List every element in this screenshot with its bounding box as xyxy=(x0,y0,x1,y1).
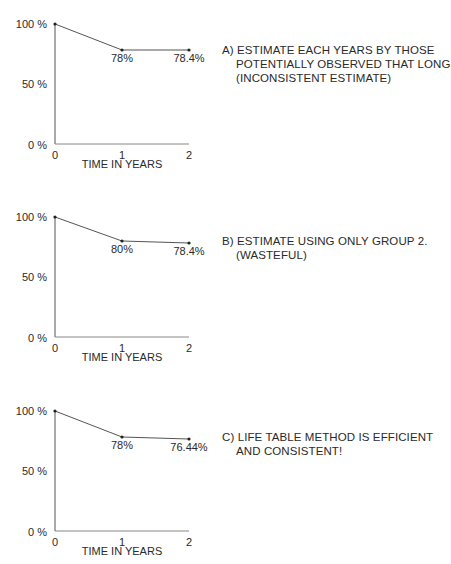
y-axis: 100 % 50 % 0 % xyxy=(16,405,55,538)
survival-chart-c: 100 % 50 % 0 % 0 1 2 TIME IN YEARS 78% 7… xyxy=(0,387,220,564)
xtick-2: 2 xyxy=(186,342,192,354)
ytick-0: 0 % xyxy=(28,332,47,344)
caption-line: AND CONSISTENT! xyxy=(222,444,433,458)
x-axis: 0 1 2 TIME IN YEARS xyxy=(52,531,192,557)
data-point-0 xyxy=(53,22,56,25)
data-point-0 xyxy=(53,215,56,218)
caption-a: A) ESTIMATE EACH YEARS BY THOSE POTENTIA… xyxy=(222,43,451,85)
x-axis-label: TIME IN YEARS xyxy=(82,351,162,363)
x-axis: 0 1 2 TIME IN YEARS xyxy=(52,144,192,170)
caption-line: POTENTIALLY OBSERVED THAT LONG xyxy=(222,57,451,71)
survival-chart-b: 100 % 50 % 0 % 0 1 2 TIME IN YEARS 80% 7… xyxy=(0,193,220,368)
panel-a: 100 % 50 % 0 % 0 1 2 TIME IN YEARS 78% 7… xyxy=(0,0,440,190)
point-label-1: 80% xyxy=(111,243,133,255)
ytick-50: 50 % xyxy=(22,465,47,477)
survival-line: 78% 78.4% xyxy=(53,22,204,64)
caption-line: A) ESTIMATE EACH YEARS BY THOSE xyxy=(222,43,451,57)
point-label-1: 78% xyxy=(111,439,133,451)
ytick-100: 100 % xyxy=(16,405,47,417)
xtick-0: 0 xyxy=(52,342,58,354)
survival-line: 78% 76.44% xyxy=(53,409,207,453)
caption-c: C) LIFE TABLE METHOD IS EFFICIENT AND CO… xyxy=(222,430,433,458)
x-axis: 0 1 2 TIME IN YEARS xyxy=(52,337,192,363)
panel-c: 100 % 50 % 0 % 0 1 2 TIME IN YEARS 78% 7… xyxy=(0,387,440,564)
point-label-1: 78% xyxy=(111,52,133,64)
panel-b: 100 % 50 % 0 % 0 1 2 TIME IN YEARS 80% 7… xyxy=(0,193,440,368)
ytick-100: 100 % xyxy=(16,211,47,223)
x-axis-label: TIME IN YEARS xyxy=(82,545,162,557)
caption-line: C) LIFE TABLE METHOD IS EFFICIENT xyxy=(222,430,433,444)
caption-b: B) ESTIMATE USING ONLY GROUP 2. (WASTEFU… xyxy=(222,234,427,262)
xtick-0: 0 xyxy=(52,536,58,548)
y-axis: 100 % 50 % 0 % xyxy=(16,211,55,344)
data-point-0 xyxy=(53,409,56,412)
ytick-100: 100 % xyxy=(16,18,47,30)
point-label-2: 78.4% xyxy=(173,245,204,257)
point-label-2: 76.44% xyxy=(170,441,208,453)
point-label-2: 78.4% xyxy=(173,52,204,64)
xtick-2: 2 xyxy=(186,149,192,161)
ytick-50: 50 % xyxy=(22,271,47,283)
caption-line: (INCONSISTENT ESTIMATE) xyxy=(222,71,451,85)
ytick-50: 50 % xyxy=(22,78,47,90)
xtick-2: 2 xyxy=(186,536,192,548)
ytick-0: 0 % xyxy=(28,139,47,151)
survival-chart-a: 100 % 50 % 0 % 0 1 2 TIME IN YEARS 78% 7… xyxy=(0,0,220,190)
xtick-0: 0 xyxy=(52,149,58,161)
ytick-0: 0 % xyxy=(28,526,47,538)
caption-line: B) ESTIMATE USING ONLY GROUP 2. xyxy=(222,234,427,248)
y-axis: 100 % 50 % 0 % xyxy=(16,18,55,151)
survival-line: 80% 78.4% xyxy=(53,215,204,257)
x-axis-label: TIME IN YEARS xyxy=(82,158,162,170)
caption-line: (WASTEFUL) xyxy=(222,248,427,262)
